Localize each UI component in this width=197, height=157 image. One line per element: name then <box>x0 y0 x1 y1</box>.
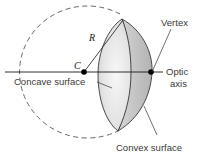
center-label: C <box>74 60 81 71</box>
radius-label: R <box>88 32 95 43</box>
optic-axis-label-2: axis <box>170 78 187 89</box>
vertex-label: Vertex <box>161 17 188 28</box>
convex-surface-label: Convex surface <box>116 142 182 153</box>
optic-axis-label-1: Optic <box>166 66 188 77</box>
concave-surface-label: Concave surface <box>14 76 85 87</box>
spherical-mirror-diagram: R C Vertex Optic axis Concave surface Co… <box>0 0 197 157</box>
mirror-shell <box>98 19 152 131</box>
center-point <box>81 69 87 75</box>
convex-leader <box>144 106 157 135</box>
